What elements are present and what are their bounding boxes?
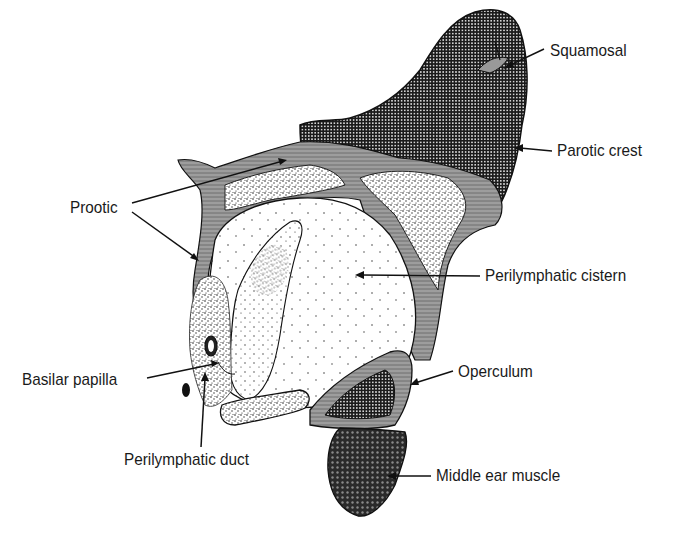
label-perilymphatic-cistern: Perilymphatic cistern — [485, 267, 626, 284]
label-squamosal: Squamosal — [550, 42, 627, 59]
middle-ear-muscle — [328, 428, 407, 516]
label-middle-ear-muscle: Middle ear muscle — [436, 467, 560, 484]
label-operculum: Operculum — [458, 363, 533, 380]
label-prootic: Prootic — [70, 199, 118, 216]
label-basilar-papilla: Basilar papilla — [22, 371, 117, 388]
label-parotic-crest: Parotic crest — [557, 142, 642, 159]
label-perilymphatic-duct: Perilymphatic duct — [124, 451, 249, 468]
